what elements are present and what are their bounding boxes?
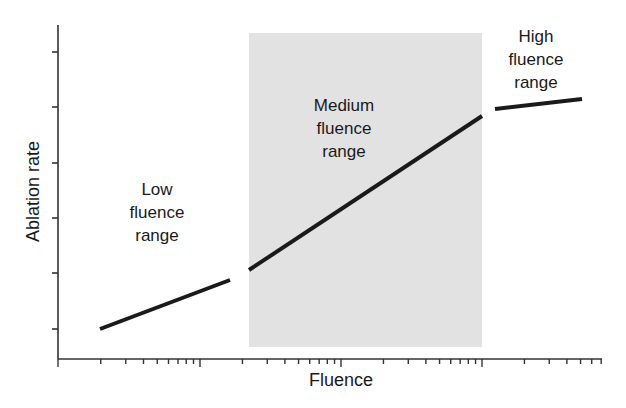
high-fluence-line bbox=[495, 99, 582, 109]
low-fluence-line bbox=[100, 280, 230, 329]
medium-fluence-label: Medium fluence range bbox=[294, 94, 394, 163]
x-axis-label: Fluence bbox=[266, 369, 416, 392]
low-fluence-label: Low fluence range bbox=[112, 178, 202, 247]
x-axis bbox=[58, 359, 602, 367]
high-fluence-label: High fluence range bbox=[491, 25, 581, 94]
y-axis bbox=[52, 25, 58, 359]
y-axis-label: Ablation rate bbox=[22, 117, 45, 267]
medium-fluence-shaded-region bbox=[249, 33, 482, 347]
